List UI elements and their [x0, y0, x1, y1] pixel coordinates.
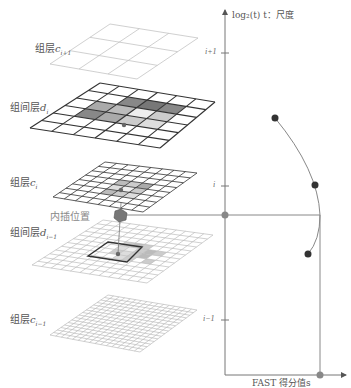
data-point: [305, 251, 312, 258]
axis-scale-marker: [222, 212, 229, 219]
interp-position-label: 内插位置: [50, 208, 90, 223]
layer-label-c-i+1: 组层ci+1: [35, 40, 71, 56]
keypoint-dot: [119, 188, 123, 192]
y-axis-label: log₂(t) t：尺度: [232, 8, 294, 21]
tick-i+1: i+1: [205, 47, 217, 56]
layer-label-c-i-1: 组层ci−1: [10, 311, 46, 327]
keypoint-dot: [122, 123, 126, 127]
data-point: [312, 182, 319, 189]
axis-score-marker: [317, 372, 324, 379]
data-point: [272, 115, 279, 122]
diagram-canvas: [0, 0, 351, 388]
layer-label-d-i-1: 组间层di−1: [10, 224, 57, 240]
layer-label-d-i: 组间层di: [10, 99, 48, 115]
layer-label-c-i: 组层ci: [10, 174, 38, 190]
x-axis-label: FAST 得分值s: [252, 376, 311, 388]
tick-i: i: [213, 180, 215, 189]
tick-i-1: i−1: [203, 314, 215, 323]
interp-position-icon: [114, 209, 127, 222]
